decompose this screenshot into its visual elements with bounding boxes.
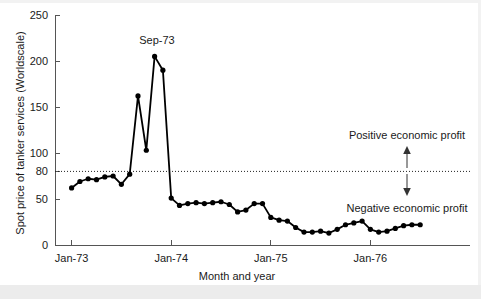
data-point [293, 225, 298, 230]
data-point [418, 222, 423, 227]
y-tick-label: 50 [36, 193, 48, 205]
data-point [127, 172, 132, 177]
x-tick-group: Jan-73Jan-74Jan-75Jan-76 [55, 240, 387, 264]
data-point [268, 215, 273, 220]
data-point [310, 230, 315, 235]
x-tick-label: Jan-74 [154, 252, 188, 264]
data-point [169, 195, 174, 200]
y-tick-label: 200 [30, 55, 48, 67]
data-point [326, 230, 331, 235]
data-point [177, 203, 182, 208]
data-point [343, 222, 348, 227]
data-point [218, 199, 223, 204]
y-tick-label: 0 [42, 239, 48, 251]
y-axis-title: Spot price of tanker services (Worldscal… [14, 31, 26, 234]
positive-profit-label: Positive economic profit [349, 129, 465, 141]
data-point [384, 229, 389, 234]
data-point [393, 226, 398, 231]
data-point [185, 201, 190, 206]
data-point [368, 227, 373, 232]
x-axis: Jan-73Jan-74Jan-75Jan-76 [55, 240, 470, 264]
data-point [86, 176, 91, 181]
data-point [202, 201, 207, 206]
x-axis-title: Month and year [199, 270, 276, 282]
peak-annotation-label: Sep-73 [139, 34, 174, 46]
data-point [227, 202, 232, 207]
y-tick-label: 80 [36, 165, 48, 177]
y-tick-label: 100 [30, 147, 48, 159]
data-point [235, 209, 240, 214]
data-point [285, 218, 290, 223]
data-point [335, 227, 340, 232]
line-chart: 05080100150200250 Jan-73Jan-74Jan-75Jan-… [0, 0, 481, 299]
data-point [318, 229, 323, 234]
data-point [401, 223, 406, 228]
data-point [152, 54, 157, 59]
data-point [77, 179, 82, 184]
data-point [360, 218, 365, 223]
data-point [409, 222, 414, 227]
negative-profit-label: Negative economic profit [346, 202, 467, 214]
positive-arrow-head-icon [403, 146, 411, 154]
data-point [252, 201, 257, 206]
y-tick-label: 250 [30, 9, 48, 21]
data-point [144, 148, 149, 153]
y-tick-label: 150 [30, 101, 48, 113]
chart-page: 05080100150200250 Jan-73Jan-74Jan-75Jan-… [0, 0, 481, 299]
data-point [102, 174, 107, 179]
data-point [160, 68, 165, 73]
data-point [351, 220, 356, 225]
x-tick-label: Jan-76 [354, 252, 388, 264]
data-point [260, 201, 265, 206]
data-point [243, 207, 248, 212]
y-axis: 05080100150200250 [30, 9, 60, 251]
data-point [69, 185, 74, 190]
data-point [376, 230, 381, 235]
data-point [119, 182, 124, 187]
data-point [135, 93, 140, 98]
negative-arrow-head-icon [403, 188, 411, 196]
x-tick-label: Jan-73 [55, 252, 89, 264]
data-point [210, 200, 215, 205]
data-point [194, 200, 199, 205]
data-point [277, 218, 282, 223]
data-point [301, 230, 306, 235]
data-point [111, 173, 116, 178]
data-point [94, 177, 99, 182]
x-tick-label: Jan-75 [254, 252, 288, 264]
